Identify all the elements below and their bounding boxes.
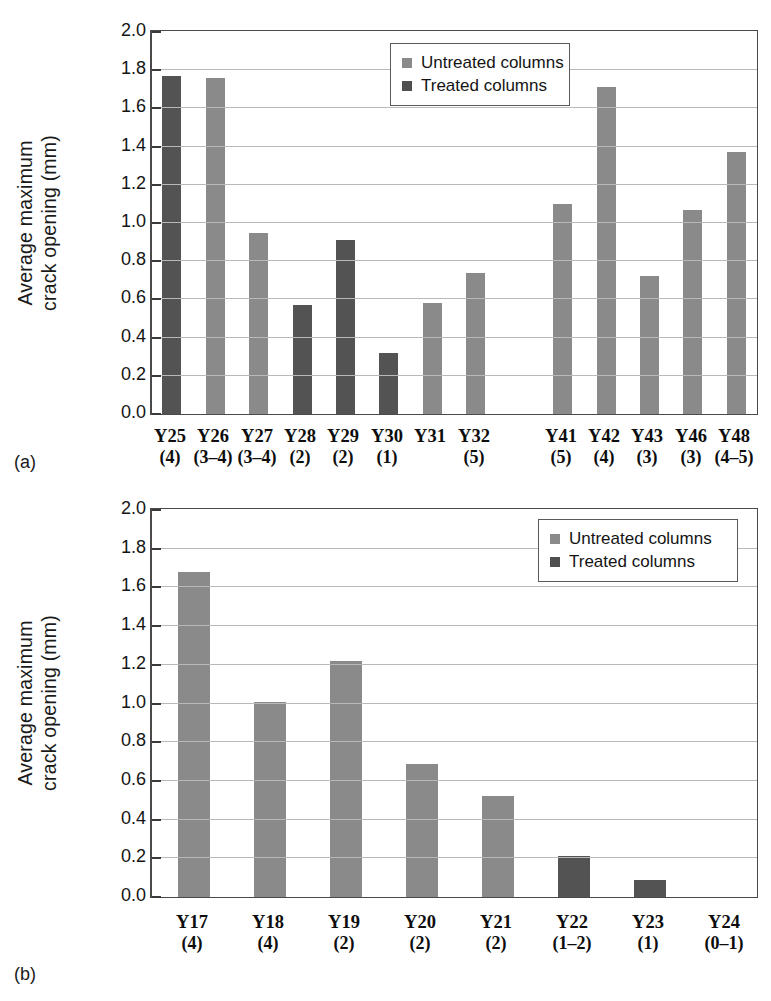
legend-item-untreated: Untreated columns: [402, 51, 555, 74]
y-axis-tick: [152, 337, 161, 339]
y-axis-tick: [152, 548, 161, 550]
y-axis-tick: [152, 298, 161, 300]
y-axis-tick: [152, 780, 161, 782]
legend-swatch-treated-icon: [550, 557, 560, 567]
chart-panel-a: Average maximum crack opening (mm) 0.00.…: [0, 0, 771, 486]
x-axis-category-sublabel: (1): [608, 933, 688, 954]
y-axis-tick: [152, 146, 161, 148]
y-axis-tick: [152, 703, 161, 705]
y-axis-title-line2-b: crack opening (mm): [37, 593, 61, 813]
y-axis-tick: [152, 741, 161, 743]
gridline: [152, 260, 757, 261]
gridline: [152, 703, 757, 704]
x-axis-category-name: Y32: [434, 426, 514, 447]
y-axis-tick-label: 1.4: [121, 615, 146, 633]
x-axis-category-name: Y19: [304, 912, 384, 933]
x-axis-category-sublabel: (4–5): [694, 447, 771, 468]
bar-Y23: [634, 880, 666, 897]
gridline: [152, 819, 757, 820]
y-axis-tick: [152, 222, 161, 224]
legend-label-untreated: Untreated columns: [421, 54, 564, 71]
x-axis-category-name: Y17: [152, 912, 232, 933]
bar-Y22: [558, 856, 590, 897]
bar-Y28: [293, 305, 312, 414]
gridline: [152, 146, 757, 147]
y-axis-tick-label: 1.6: [121, 97, 146, 115]
legend-swatch-untreated-icon: [550, 534, 560, 544]
x-axis-category-Y19: Y19(2): [304, 912, 384, 954]
y-axis-tick-labels-a: 0.00.20.40.60.81.01.21.41.61.82.0: [94, 30, 146, 415]
legend-item-treated: Treated columns: [402, 74, 555, 97]
y-axis-tick-label: 1.8: [121, 59, 146, 77]
x-axis-category-Y24: Y24(0–1): [684, 912, 764, 954]
y-axis-tick: [152, 413, 161, 415]
legend-swatch-untreated-icon: [402, 58, 412, 68]
y-axis-tick: [152, 625, 161, 627]
x-axis-category-name: Y48: [694, 426, 771, 447]
x-axis-category-sublabel: (0–1): [684, 933, 764, 954]
y-axis-tick-label: 0.8: [121, 731, 146, 749]
y-axis-tick-label: 0.8: [121, 250, 146, 268]
bar-Y18: [254, 702, 286, 897]
y-axis-tick-label: 1.2: [121, 654, 146, 672]
legend-label-untreated-b: Untreated columns: [569, 530, 712, 547]
x-axis-category-Y20: Y20(2): [380, 912, 460, 954]
chart-panel-b: Average maximum crack opening (mm) 0.00.…: [0, 486, 771, 1001]
y-axis-tick: [152, 260, 161, 262]
bar-Y42: [597, 87, 616, 414]
x-axis-category-sublabel: (4): [228, 933, 308, 954]
x-axis-category-Y18: Y18(4): [228, 912, 308, 954]
y-axis-tick-label: 1.6: [121, 576, 146, 594]
x-axis-category-name: Y21: [456, 912, 536, 933]
y-axis-tick-label: 0.2: [121, 847, 146, 865]
y-axis-tick: [152, 896, 161, 898]
y-axis-tick: [152, 375, 161, 377]
bar-Y17: [178, 572, 210, 897]
bar-Y46: [683, 210, 702, 414]
y-axis-title-b: Average maximum crack opening (mm): [0, 486, 74, 1001]
y-axis-tick-label: 1.0: [121, 693, 146, 711]
bar-Y20: [406, 764, 438, 898]
gridline: [152, 184, 757, 185]
y-axis-tick-labels-b: 0.00.20.40.60.81.01.21.41.61.82.0: [94, 508, 146, 898]
x-axis-category-sublabel: (4): [152, 933, 232, 954]
panel-letter-b: (b): [14, 964, 36, 985]
y-axis-tick: [152, 509, 161, 511]
y-axis-tick-label: 0.6: [121, 770, 146, 788]
bar-Y19: [330, 661, 362, 897]
bar-Y25: [162, 76, 181, 414]
x-axis-category-Y48: Y48(4–5): [694, 426, 771, 468]
y-axis-tick: [152, 31, 161, 33]
x-axis-category-name: Y22: [532, 912, 612, 933]
y-axis-tick: [152, 586, 161, 588]
x-axis-category-sublabel: (5): [434, 447, 514, 468]
y-axis-tick-label: 2.0: [121, 21, 146, 39]
gridline: [152, 586, 757, 587]
x-axis-category-Y17: Y17(4): [152, 912, 232, 954]
x-axis-category-sublabel: (1–2): [532, 933, 612, 954]
gridline: [152, 780, 757, 781]
y-axis-tick: [152, 69, 161, 71]
y-axis-tick-label: 2.0: [121, 499, 146, 517]
x-axis-labels-b: Y17(4)Y18(4)Y19(2)Y20(2)Y21(2)Y22(1–2)Y2…: [150, 912, 758, 964]
bar-Y30: [379, 353, 398, 414]
y-axis-title-line1: Average maximum: [13, 113, 37, 333]
x-axis-category-sublabel: (2): [304, 933, 384, 954]
y-axis-tick-label: 0.0: [121, 886, 146, 904]
y-axis-tick-label: 0.4: [121, 809, 146, 827]
gridline: [152, 857, 757, 858]
legend-b: Untreated columns Treated columns: [538, 519, 738, 582]
y-axis-tick: [152, 819, 161, 821]
y-axis-tick-label: 0.0: [121, 403, 146, 421]
x-axis-category-sublabel: (2): [380, 933, 460, 954]
y-axis-tick: [152, 184, 161, 186]
legend-item-untreated-b: Untreated columns: [550, 527, 723, 550]
panel-letter-a: (a): [14, 452, 36, 473]
x-axis-category-sublabel: (2): [456, 933, 536, 954]
bar-Y26: [206, 78, 225, 414]
x-axis-category-Y21: Y21(2): [456, 912, 536, 954]
x-axis-category-name: Y18: [228, 912, 308, 933]
bar-Y29: [336, 240, 355, 414]
y-axis-tick-label: 1.0: [121, 212, 146, 230]
y-axis-tick: [152, 107, 161, 109]
